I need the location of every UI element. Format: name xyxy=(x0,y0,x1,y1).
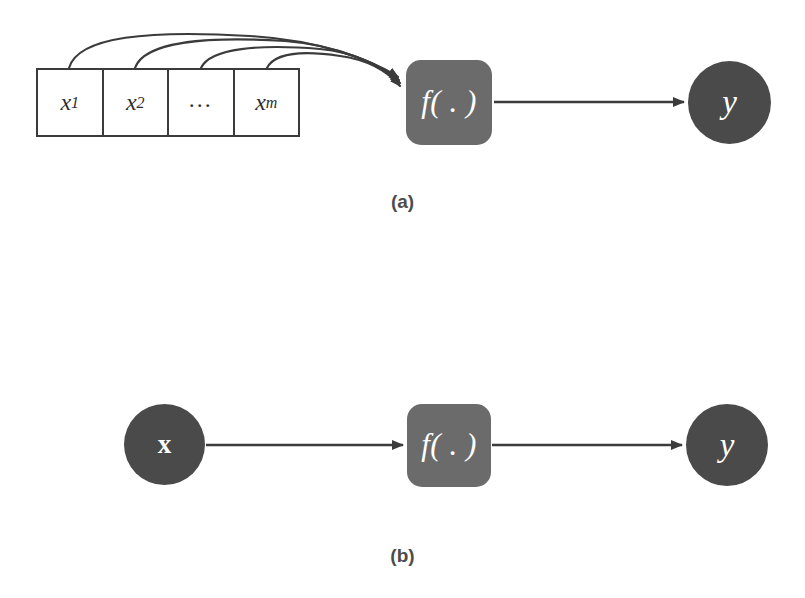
vector-cell-label: x xyxy=(126,89,137,116)
vector-cell-label: ... xyxy=(189,86,213,113)
vector-cell-label: x xyxy=(60,89,71,116)
output-circle-label: y xyxy=(720,429,735,462)
feature-vector-row: x1 x2 ... xm xyxy=(36,68,300,137)
vector-cell-subscript: 1 xyxy=(71,94,79,112)
caption-a: (a) xyxy=(0,191,805,213)
output-circle-y-b: y xyxy=(686,404,768,486)
vector-cell-ellipsis: ... xyxy=(169,70,235,135)
vector-cell-x1: x1 xyxy=(38,70,104,135)
function-box-label: f( . ) xyxy=(421,429,477,460)
figure-container: x1 x2 ... xm xyxy=(0,0,805,598)
vector-cell-label: x xyxy=(255,89,266,116)
input-circle-x: x xyxy=(124,404,205,485)
panel-b: x f( . ) y (b) xyxy=(0,330,805,598)
function-box-a: f( . ) xyxy=(406,60,492,145)
function-box-label: f( . ) xyxy=(421,86,477,117)
caption-b: (b) xyxy=(0,545,805,567)
input-circle-label: x xyxy=(158,431,172,458)
vector-cell-x2: x2 xyxy=(104,70,170,135)
function-box-b: f( . ) xyxy=(407,404,491,487)
output-circle-y-a: y xyxy=(688,61,771,144)
vector-cell-subscript: 2 xyxy=(137,94,145,112)
vector-cell-xm: xm xyxy=(235,70,299,135)
panel-a: x1 x2 ... xm xyxy=(0,0,805,240)
vector-cell-subscript: m xyxy=(266,94,278,112)
output-circle-label: y xyxy=(722,86,737,119)
